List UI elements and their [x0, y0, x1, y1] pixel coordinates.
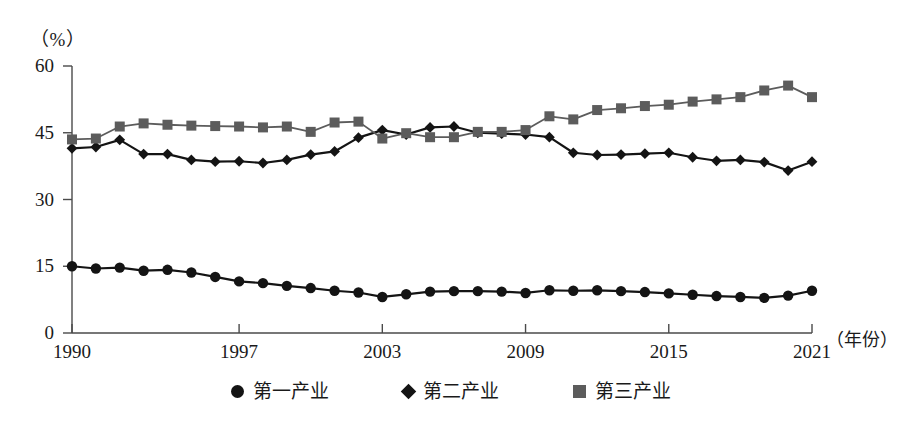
- y-axis-ticks: [63, 66, 72, 333]
- legend-label: 第一产业: [253, 382, 329, 401]
- data-point: [186, 154, 197, 165]
- diamond-marker-icon: [401, 384, 417, 400]
- circle-marker-icon: [231, 385, 244, 398]
- data-point: [616, 149, 627, 160]
- data-point: [544, 285, 554, 295]
- data-point: [186, 121, 196, 131]
- data-point: [616, 286, 626, 296]
- data-point: [329, 286, 339, 296]
- data-point: [67, 143, 78, 154]
- legend-item-1[interactable]: 第一产业: [231, 382, 329, 401]
- legend-item-3[interactable]: 第三产业: [573, 382, 671, 401]
- data-point: [210, 156, 221, 167]
- data-point: [234, 156, 245, 167]
- data-point: [258, 278, 268, 288]
- data-point: [306, 127, 316, 137]
- data-point: [234, 276, 244, 286]
- chart-axes: [72, 66, 812, 333]
- chart-plot-area: [0, 0, 902, 434]
- data-point: [807, 156, 818, 167]
- data-point: [401, 128, 411, 138]
- data-point: [759, 85, 769, 95]
- data-point: [664, 288, 674, 298]
- x-tick-label: 1997: [204, 342, 274, 361]
- data-point: [688, 97, 698, 107]
- y-tick-label: 30: [14, 190, 54, 209]
- data-point: [783, 290, 793, 300]
- data-point: [497, 127, 507, 137]
- data-point: [473, 127, 483, 137]
- data-point: [210, 121, 220, 131]
- data-point: [783, 165, 794, 176]
- data-point: [640, 287, 650, 297]
- legend-item-2[interactable]: 第二产业: [403, 382, 499, 401]
- data-point: [496, 286, 506, 296]
- data-point: [592, 105, 602, 115]
- legend-label: 第二产业: [423, 382, 499, 401]
- data-point: [330, 118, 340, 128]
- x-tick-label: 2003: [347, 342, 417, 361]
- data-point: [640, 148, 651, 159]
- data-point: [616, 103, 626, 113]
- x-tick-label: 2015: [634, 342, 704, 361]
- data-point: [592, 150, 603, 161]
- y-tick-label: 45: [14, 123, 54, 142]
- data-point: [162, 120, 172, 130]
- data-point: [258, 122, 268, 132]
- y-tick-label: 0: [14, 323, 54, 342]
- data-point: [449, 121, 460, 132]
- data-point: [186, 267, 196, 277]
- data-point: [664, 100, 674, 110]
- square-marker-icon: [573, 385, 586, 398]
- data-point: [520, 288, 530, 298]
- x-axis-ticks: [72, 324, 812, 333]
- data-point: [640, 101, 650, 111]
- data-point: [425, 286, 435, 296]
- data-point: [162, 265, 172, 275]
- data-point: [807, 92, 817, 102]
- data-point: [258, 158, 269, 169]
- data-point: [663, 147, 674, 158]
- data-point: [687, 290, 697, 300]
- data-point: [114, 134, 125, 145]
- data-point: [305, 149, 316, 160]
- data-point: [139, 118, 149, 128]
- data-point: [115, 262, 125, 272]
- series-2: [67, 121, 818, 176]
- data-point: [711, 155, 722, 166]
- data-point: [592, 285, 602, 295]
- data-point: [282, 281, 292, 291]
- data-point: [234, 122, 244, 132]
- data-point: [568, 147, 579, 158]
- data-point: [735, 154, 746, 165]
- data-point: [425, 122, 436, 133]
- data-point: [282, 122, 292, 132]
- data-point: [807, 286, 817, 296]
- data-point: [353, 287, 363, 297]
- x-tick-label: 1990: [37, 342, 107, 361]
- chart-legend: 第一产业第二产业第三产业: [0, 382, 902, 401]
- data-point: [425, 132, 435, 142]
- data-point: [568, 114, 578, 124]
- data-point: [67, 134, 77, 144]
- x-tick-label: 2009: [491, 342, 561, 361]
- data-point: [759, 293, 769, 303]
- series-3: [67, 81, 817, 145]
- data-point: [138, 266, 148, 276]
- data-point: [783, 81, 793, 91]
- data-point: [544, 111, 554, 121]
- data-point: [377, 292, 387, 302]
- data-point: [735, 292, 745, 302]
- data-point: [329, 146, 340, 157]
- data-point: [449, 132, 459, 142]
- data-point: [281, 154, 292, 165]
- data-point: [162, 149, 173, 160]
- chart-container: （%） 015304560 199019972003200920152021 （…: [0, 0, 902, 434]
- data-point: [401, 289, 411, 299]
- data-point: [138, 149, 149, 160]
- data-point: [759, 157, 770, 168]
- data-point: [67, 261, 77, 271]
- data-point: [544, 132, 555, 143]
- data-point: [687, 152, 698, 163]
- x-axis-unit-label: （年份）: [826, 325, 898, 351]
